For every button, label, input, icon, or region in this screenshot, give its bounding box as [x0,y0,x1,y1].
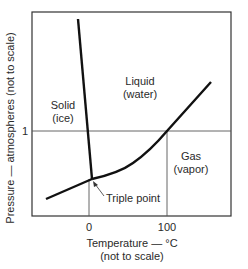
gas-sub-label: (vapor) [174,163,209,175]
x-tick-0: 0 [86,221,92,233]
phase-diagram: Solid (ice) Liquid (water) Gas (vapor) T… [0,0,248,269]
x-tick-100: 100 [158,221,176,233]
y-tick-1: 1 [22,125,28,137]
solid-label: Solid [51,99,75,111]
liquid-sub-label: (water) [123,88,157,100]
melting-curve [78,19,92,179]
triple-point-label: Triple point [106,192,160,204]
solid-sub-label: (ice) [52,112,73,124]
x-axis-title: Temperature — °C [86,237,177,249]
arrowhead-icon [93,181,98,187]
gas-label: Gas [181,150,202,162]
liquid-label: Liquid [125,75,154,87]
y-axis-title: Pressure — atmospheres (not to scale) [4,32,16,223]
sublimation-curve [46,179,92,199]
x-axis-note: (not to scale) [100,250,164,262]
